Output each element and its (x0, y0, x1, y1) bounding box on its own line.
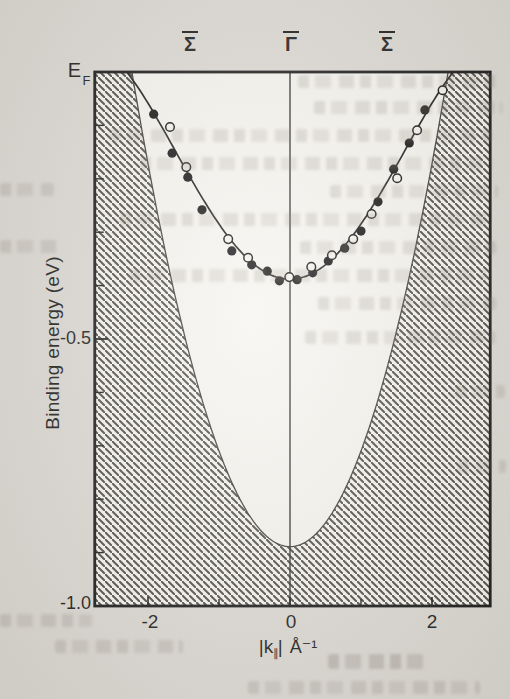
open-circle-data-point (182, 163, 191, 172)
open-circle-data-point (285, 273, 294, 282)
open-circle-data-point (367, 210, 376, 219)
filled-circle-data-point (373, 197, 382, 206)
open-circle-data-point (349, 235, 358, 244)
filled-circle-data-point (275, 276, 284, 285)
y-tick-label-minus-1-0: -1.0 (42, 593, 91, 614)
angstrom-unit: Å⁻¹ (290, 637, 318, 657)
open-circle-data-point (438, 86, 447, 95)
fermi-label-main: E (68, 59, 82, 81)
open-circle-data-point (328, 251, 337, 260)
fermi-level-label: EF (50, 59, 90, 85)
top-axis-label-gamma: Γ (283, 31, 299, 56)
filled-circle-data-point (389, 165, 398, 174)
y-axis-title: Binding energy (eV) (42, 256, 64, 430)
x-tick-label-zero: 0 (286, 611, 297, 633)
x-tick-label-plus-2: 2 (427, 611, 438, 633)
open-circle-data-point (307, 263, 316, 272)
open-circle-data-point (413, 126, 422, 135)
x-tick-label-minus-2: -2 (142, 611, 159, 633)
filled-circle-data-point (263, 267, 272, 276)
open-circle-data-point (166, 123, 175, 132)
filled-circle-data-point (420, 105, 429, 114)
open-circle-data-point (244, 253, 253, 262)
filled-circle-data-point (197, 205, 206, 214)
open-circle-data-point (393, 174, 402, 183)
filled-circle-data-point (405, 138, 414, 147)
filled-circle-data-point (227, 246, 236, 255)
filled-circle-data-point (168, 149, 177, 158)
filled-circle-data-point (356, 227, 365, 236)
scanned-page: EF Σ Γ Σ -0.5 -1.0 -2 0 2 |k∥|Å⁻¹ Bindin… (0, 0, 510, 699)
filled-circle-data-point (183, 173, 192, 182)
top-axis-label-sigma-left: Σ (182, 31, 198, 56)
fermi-label-sub: F (83, 73, 91, 88)
x-axis-title: |k∥|Å⁻¹ (259, 636, 317, 658)
filled-circle-data-point (149, 110, 158, 119)
k-parallel-subscript: ∥ (273, 647, 278, 659)
filled-circle-data-point (340, 244, 349, 253)
top-axis-label-sigma-right: Σ (379, 31, 395, 56)
open-circle-data-point (224, 235, 233, 244)
